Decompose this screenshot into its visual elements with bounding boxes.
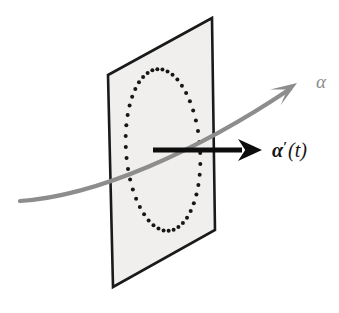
ellipse-dot	[198, 162, 202, 166]
ellipse-dot	[141, 75, 145, 79]
alpha-label: α	[316, 71, 327, 92]
alpha-prime-t-label: α′(t)	[272, 139, 307, 162]
ellipse-dot	[176, 225, 180, 229]
ellipse-dot	[167, 229, 171, 233]
ellipse-dot	[181, 221, 185, 225]
ellipse-dot	[137, 80, 141, 84]
ellipse-dot	[172, 228, 176, 232]
ellipse-dot	[184, 91, 188, 95]
ellipse-dot	[124, 123, 128, 127]
alpha-prime-argument: (t)	[288, 139, 307, 162]
ellipse-dot	[126, 113, 130, 117]
ellipse-dot	[128, 104, 132, 108]
ellipse-dot	[189, 209, 193, 213]
ellipse-dot	[192, 201, 196, 205]
ellipse-dot	[130, 95, 134, 99]
ellipse-dot	[131, 187, 135, 191]
ellipse-dot	[196, 183, 200, 187]
ellipse-dot	[180, 84, 184, 88]
ellipse-dot	[198, 173, 202, 177]
ellipse-dot	[126, 167, 130, 171]
ellipse-dot	[138, 205, 142, 209]
ellipse-dot	[150, 68, 154, 72]
ellipse-dot	[125, 156, 129, 160]
ellipse-dot	[133, 87, 137, 91]
ellipse-dot	[146, 71, 150, 75]
ellipse-dot	[160, 68, 164, 72]
ellipse-dot	[188, 99, 192, 103]
ellipse-dot	[142, 212, 146, 216]
ellipse-dot	[162, 228, 166, 232]
ellipse-dot	[175, 78, 179, 82]
ellipse-dot	[155, 67, 159, 71]
ellipse-dot	[147, 218, 151, 222]
ellipse-dot	[171, 73, 175, 77]
ellipse-dot	[124, 134, 128, 138]
ellipse-dot	[151, 223, 155, 227]
ellipse-dot	[166, 70, 170, 74]
ellipse-dot	[156, 227, 160, 231]
alpha-prime-mark: ′	[283, 140, 287, 155]
ellipse-dot	[128, 177, 132, 181]
ellipse-dot	[194, 192, 198, 196]
ellipse-dot	[194, 119, 198, 123]
ellipse-dot	[185, 216, 189, 220]
diagram-svg: α α′(t)	[0, 0, 339, 313]
ellipse-dot	[134, 197, 138, 201]
ellipse-dot	[124, 145, 128, 149]
figure-canvas: α α′(t)	[0, 0, 339, 313]
ellipse-dot	[191, 109, 195, 113]
ellipse-dot	[196, 129, 200, 133]
